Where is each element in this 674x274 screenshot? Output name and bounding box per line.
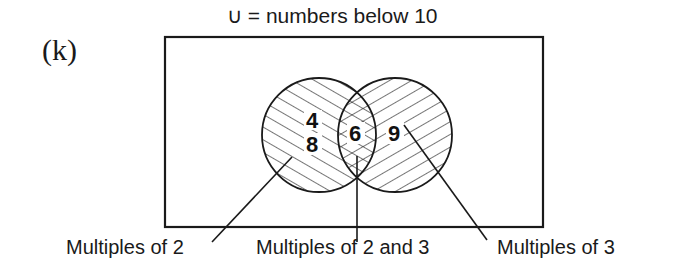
element-4: 4: [306, 108, 318, 134]
leader-line-multiples-of-2: [212, 157, 292, 242]
venn-diagram: [0, 0, 674, 274]
element-8: 8: [306, 132, 318, 158]
caption-multiples-of-2: Multiples of 2: [66, 236, 184, 259]
caption-multiples-of-3: Multiples of 3: [497, 236, 615, 259]
caption-multiples-of-2-and-3: Multiples of 2 and 3: [256, 236, 429, 259]
element-9: 9: [388, 121, 400, 147]
element-6: 6: [349, 121, 361, 147]
